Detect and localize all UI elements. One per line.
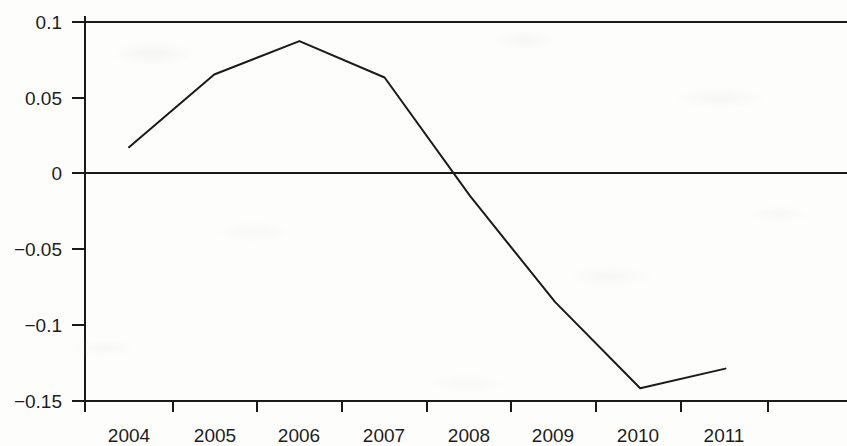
- x-tick-label-2005: 2005: [194, 425, 236, 446]
- x-tick-label-2007: 2007: [363, 425, 405, 446]
- x-tick-label-2006: 2006: [278, 425, 320, 446]
- line-chart: 0.1 0.05 0 −0.05 −0.1 −0.15 2004 2005 20…: [0, 0, 847, 446]
- x-axis-ticks: [85, 401, 768, 412]
- x-tick-label-2010: 2010: [617, 425, 659, 446]
- y-tick-label-2: 0: [51, 163, 62, 184]
- chart-screenshot: 0.1 0.05 0 −0.05 −0.1 −0.15 2004 2005 20…: [0, 0, 847, 446]
- x-tick-label-2008: 2008: [448, 425, 490, 446]
- x-tick-label-2009: 2009: [532, 425, 574, 446]
- y-axis-ticks: [72, 22, 85, 401]
- x-tick-label-2011: 2011: [704, 425, 745, 446]
- y-tick-label-5: −0.15: [14, 391, 62, 412]
- plot-area-background: [85, 22, 847, 401]
- y-tick-label-3: −0.05: [14, 239, 62, 260]
- y-tick-label-4: −0.1: [24, 315, 62, 336]
- y-tick-label-1: 0.05: [25, 88, 62, 109]
- x-axis-tick-labels: 2004 2005 2006 2007 2008 2009 2010 2011: [108, 425, 745, 446]
- x-tick-label-2004: 2004: [108, 425, 151, 446]
- y-axis-tick-labels: 0.1 0.05 0 −0.05 −0.1 −0.15: [14, 12, 62, 412]
- y-tick-label-0: 0.1: [36, 12, 62, 33]
